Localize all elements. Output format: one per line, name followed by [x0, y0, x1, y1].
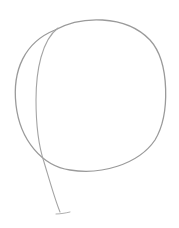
sketch-drawing	[0, 0, 179, 228]
outer-circle-stroke	[15, 20, 165, 171]
stem-tail-stroke	[56, 212, 70, 214]
sketch-canvas	[0, 0, 179, 228]
inner-arc-stem-stroke	[36, 28, 60, 212]
